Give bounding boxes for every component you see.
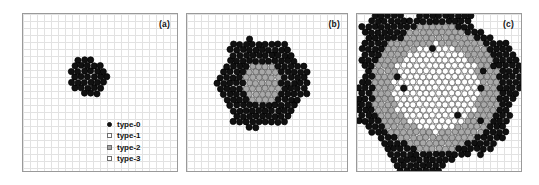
legend: type-0 type-1 type-2 type-3 [107,120,141,163]
legend-label-type-2: type-2 [117,143,141,152]
panel-label-a: (a) [159,19,170,29]
figure-root: (a) type-0 type-1 type-2 type-3 (b) [0,0,539,185]
panel-c: (c) [356,13,522,172]
panel-label-b: (b) [329,19,340,29]
legend-label-type-0: type-0 [117,120,141,129]
panel-b: (b) [186,13,348,172]
legend-marker-type-0-icon [107,122,112,127]
particle-cluster-a [23,14,177,171]
legend-item-type-0: type-0 [107,120,141,129]
legend-item-type-2: type-2 [107,143,141,152]
legend-marker-type-1-icon [107,133,112,138]
particle-cluster-b [187,14,347,171]
legend-item-type-3: type-3 [107,154,141,163]
panel-label-c: (c) [503,19,514,29]
legend-item-type-1: type-1 [107,131,141,140]
legend-marker-type-3-icon [107,156,112,161]
panel-a: (a) type-0 type-1 type-2 type-3 [22,13,178,172]
particle-cluster-c [357,14,521,171]
legend-marker-type-2-icon [107,145,112,150]
legend-label-type-1: type-1 [117,131,141,140]
legend-label-type-3: type-3 [117,154,141,163]
